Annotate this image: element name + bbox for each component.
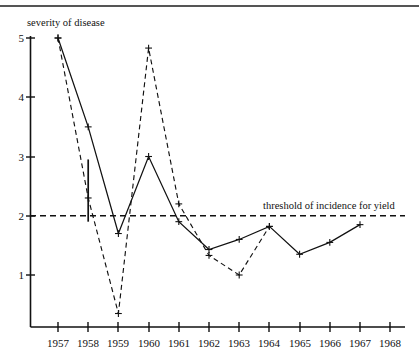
series-line-dashed	[58, 38, 269, 314]
y-tick-labels: 5 4 3 2 1	[19, 32, 25, 281]
x-tick-label-1967: 1967	[349, 337, 372, 349]
disease-severity-chart: severity of disease 5 4 3 2 1	[0, 0, 419, 363]
y-axis-title: severity of disease	[27, 17, 105, 28]
x-tick-label-1966: 1966	[319, 337, 342, 349]
x-tick-label-1958: 1958	[77, 337, 100, 349]
x-tick-label-1968: 1968	[379, 337, 402, 349]
series-dashed	[58, 38, 269, 314]
x-tick-label-1957: 1957	[47, 337, 70, 349]
x-tick-label-1959: 1959	[107, 337, 130, 349]
threshold-label: threshold of incidence for yield	[263, 200, 396, 211]
data-point-markers	[55, 35, 364, 317]
chart-canvas: severity of disease 5 4 3 2 1	[0, 0, 419, 363]
x-tick-label-1965: 1965	[289, 337, 312, 349]
x-tick-labels: 1957 1958 1959 1960 1961 1962 1963 1964 …	[47, 337, 402, 349]
y-tick-label-2: 2	[19, 210, 25, 222]
y-tick-label-5: 5	[19, 32, 25, 44]
x-tick-label-1963: 1963	[228, 337, 251, 349]
y-tick-label-4: 4	[19, 91, 25, 103]
x-tick-label-1960: 1960	[138, 337, 161, 349]
y-tick-label-1: 1	[19, 269, 25, 281]
x-tick-label-1962: 1962	[198, 337, 220, 349]
series-solid	[58, 38, 360, 254]
series-line-solid	[58, 38, 360, 254]
x-tick-label-1964: 1964	[258, 337, 281, 349]
x-tick-label-1961: 1961	[168, 337, 190, 349]
y-tick-label-3: 3	[19, 151, 25, 163]
